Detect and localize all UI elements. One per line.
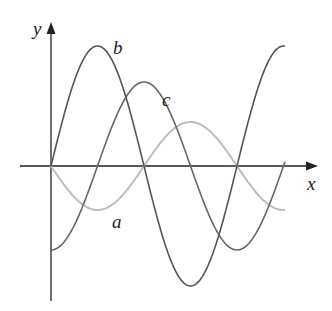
y-axis-label: y (33, 19, 41, 38)
x-axis-label: x (307, 174, 315, 193)
plot-area (0, 0, 332, 311)
curve-a-label: a (112, 212, 122, 231)
y-axis-arrow-icon (47, 22, 56, 34)
graph: y x b c a (0, 0, 332, 311)
curve-b-label: b (113, 38, 123, 57)
x-axis-arrow-icon (306, 162, 318, 171)
curve-c-label: c (162, 90, 170, 109)
